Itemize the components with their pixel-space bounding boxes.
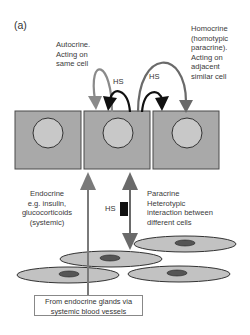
cell-left bbox=[15, 111, 81, 169]
elongated-cell-bottom-left bbox=[17, 267, 119, 283]
paracrine-arrow bbox=[120, 172, 138, 250]
paracrine-line-4: different cells bbox=[147, 218, 213, 228]
endocrine-line-4: (systemic) bbox=[16, 218, 78, 228]
panel-label: (a) bbox=[14, 19, 27, 31]
paracrine-line-3: interaction between bbox=[147, 208, 213, 218]
hs-autocrine-arrow bbox=[103, 91, 130, 112]
autocrine-line-2: Acting on bbox=[56, 50, 90, 60]
elongated-cell-middle bbox=[60, 251, 162, 267]
autocrine-line-1: Autocrine. bbox=[56, 40, 90, 50]
paracrine-line-1: Paracrine bbox=[147, 189, 213, 199]
homocrine-line-3: paracrine). bbox=[191, 43, 228, 53]
hs-homocrine-label: HS bbox=[149, 72, 160, 81]
endocrine-line-3: glucocorticoids bbox=[16, 208, 78, 218]
homocrine-label: Homocrine (homotypic paracrine). Acting … bbox=[191, 24, 228, 82]
source-box-line-1: From endocrine glands via bbox=[35, 297, 142, 307]
homocrine-line-6: similar cell bbox=[191, 72, 228, 82]
paracrine-line-2: Heterotypic bbox=[147, 199, 213, 209]
homocrine-line-4: Acting on bbox=[191, 53, 228, 63]
autocrine-line-3: same cell bbox=[56, 59, 90, 69]
elongated-cell-bottom-right bbox=[128, 266, 230, 282]
homocrine-arrow bbox=[138, 63, 193, 113]
paracrine-label: Paracrine Heterotypic interaction betwee… bbox=[147, 189, 213, 227]
hs-autocrine-label: HS bbox=[113, 77, 124, 86]
endocrine-label: Endocrine e.g. insulin, glucocorticoids … bbox=[16, 189, 78, 227]
source-box-line-2: systemic blood vessels bbox=[35, 307, 142, 317]
autocrine-label: Autocrine. Acting on same cell bbox=[56, 40, 90, 69]
endocrine-line-1: Endocrine bbox=[16, 189, 78, 199]
homocrine-line-1: Homocrine bbox=[191, 24, 228, 34]
homocrine-line-2: (homotypic bbox=[191, 34, 228, 44]
hs-paracrine-label: HS bbox=[105, 204, 116, 213]
cell-right bbox=[153, 111, 219, 169]
homocrine-line-5: adjacent bbox=[191, 62, 228, 72]
elongated-cell-top-right bbox=[134, 236, 236, 252]
endocrine-line-2: e.g. insulin, bbox=[16, 199, 78, 209]
hs-homocrine-arrow bbox=[142, 92, 169, 112]
cell-center bbox=[84, 111, 150, 169]
source-box: From endocrine glands via systemic blood… bbox=[34, 295, 143, 316]
